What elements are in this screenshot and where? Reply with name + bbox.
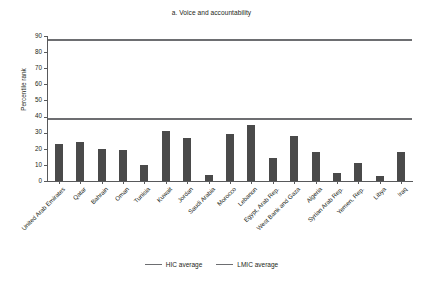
x-axis-tick [230, 181, 231, 184]
y-axis-title: Percentile rank [20, 45, 27, 135]
y-axis-tick-label: 60 [35, 81, 42, 87]
y-axis-tick-label: 0 [38, 178, 42, 184]
x-axis-tick-label: Oman [114, 186, 131, 203]
legend-label: HIC average [166, 261, 203, 268]
legend-line-swatch [145, 264, 162, 266]
y-axis-tick [44, 181, 48, 182]
bar [226, 134, 234, 181]
plot-area [48, 36, 412, 181]
x-axis-tick [59, 181, 60, 184]
chart-legend: HIC averageLMIC average [0, 261, 423, 268]
y-axis-tick-label: 50 [35, 97, 42, 103]
x-axis-tick-label: Algeria [305, 186, 323, 204]
x-axis-tick [144, 181, 145, 184]
chart-figure: a. Voice and accountability Percentile r… [0, 0, 423, 285]
x-axis-tick [166, 181, 167, 184]
x-axis-tick-label: Qatar [72, 186, 88, 202]
x-axis-tick-label: West Bank and Gaza [256, 186, 302, 232]
y-axis-tick-label: 30 [35, 129, 42, 135]
bar [247, 125, 255, 181]
x-axis-tick [123, 181, 124, 184]
y-axis-tick-label: 20 [35, 146, 42, 152]
x-axis-tick [251, 181, 252, 184]
x-axis-tick [316, 181, 317, 184]
x-axis-tick [102, 181, 103, 184]
bar [183, 138, 191, 182]
x-axis-tick [80, 181, 81, 184]
bar [55, 144, 63, 181]
x-axis-tick [380, 181, 381, 184]
x-axis-tick-label: Morocco [216, 186, 237, 207]
chart-title: a. Voice and accountability [0, 9, 423, 16]
bar [119, 150, 127, 181]
y-axis-tick-label: 70 [35, 65, 42, 71]
y-axis-tick-label: 90 [35, 33, 42, 39]
y-axis-tick-label: 80 [35, 49, 42, 55]
legend-line-swatch [216, 264, 233, 266]
bar [162, 131, 170, 181]
x-axis-tick-label: Jordan [177, 186, 195, 204]
x-axis-tick [209, 181, 210, 184]
x-axis-tick-label: Iraq [397, 186, 409, 198]
x-axis-tick-label: Kuwait [156, 186, 174, 204]
bar [269, 158, 277, 181]
bar [290, 136, 298, 181]
bar [397, 152, 405, 181]
x-axis-tick [401, 181, 402, 184]
x-axis-tick [337, 181, 338, 184]
bar [333, 173, 341, 181]
x-axis-tick-label: United Arab Emirates [20, 186, 66, 232]
reference-line-lmic [48, 118, 412, 120]
x-axis-tick [273, 181, 274, 184]
bar [312, 152, 320, 181]
legend-item: HIC average [145, 261, 203, 268]
x-axis-tick [358, 181, 359, 184]
y-axis-tick-label: 10 [35, 162, 42, 168]
bar [76, 142, 84, 181]
x-axis-tick-label: Tunisia [133, 186, 152, 205]
bar [354, 163, 362, 181]
x-axis-tick [294, 181, 295, 184]
bar [140, 165, 148, 181]
legend-label: LMIC average [237, 261, 278, 268]
x-axis-tick [187, 181, 188, 184]
bar [98, 149, 106, 181]
x-axis-tick-label: Libya [372, 186, 387, 201]
legend-item: LMIC average [216, 261, 278, 268]
y-axis-tick-label: 40 [35, 113, 42, 119]
x-axis-tick-label: Bahrain [89, 186, 109, 206]
reference-line-hic [48, 39, 412, 41]
